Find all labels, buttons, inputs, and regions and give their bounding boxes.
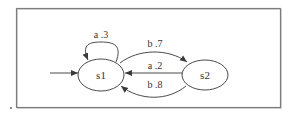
diagram-frame-shadow xyxy=(18,10,282,109)
stray-dot xyxy=(10,107,12,109)
state-node-s2: s2 xyxy=(182,60,228,90)
diagram-frame xyxy=(17,9,281,108)
edge-label-s1-s1: a .3 xyxy=(94,29,108,40)
edge-label-s2-s1-a: a .2 xyxy=(148,60,162,71)
state-diagram: a .3 b .7 a .2 b .8 s1 s2 xyxy=(0,0,295,115)
state-label-s1: s1 xyxy=(96,69,106,81)
edge-label-s1-s2: b .7 xyxy=(148,38,163,49)
state-label-s2: s2 xyxy=(200,69,210,81)
state-node-s1: s1 xyxy=(78,59,124,91)
edge-label-s2-s1-b: b .8 xyxy=(148,79,163,90)
